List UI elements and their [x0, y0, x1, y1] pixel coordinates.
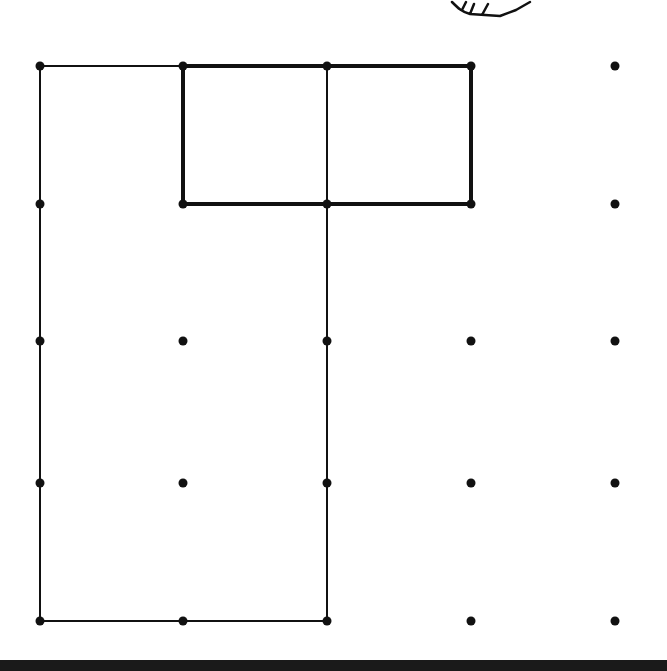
- grid-dot-r0-c2: [323, 62, 332, 71]
- grid-dot-r3-c2: [323, 479, 332, 488]
- grid-dot-r2-c1: [179, 337, 188, 346]
- grid-dot-r4-c3: [467, 617, 476, 626]
- grid-dot-r2-c2: [323, 337, 332, 346]
- grid-dot-r1-c3: [467, 200, 476, 209]
- grid-dot-r0-c4: [611, 62, 620, 71]
- hand-figure-icon: [452, 2, 530, 16]
- grid-dot-r0-c0: [36, 62, 45, 71]
- grid-dot-r2-c3: [467, 337, 476, 346]
- grid-dot-r2-c4: [611, 337, 620, 346]
- grid-dot-r1-c1: [179, 200, 188, 209]
- grid-dot-r1-c4: [611, 200, 620, 209]
- grid-dot-r4-c0: [36, 617, 45, 626]
- grid-dot-r1-c0: [36, 200, 45, 209]
- grid-dot-r3-c4: [611, 479, 620, 488]
- grid-dot-r4-c1: [179, 617, 188, 626]
- grid-dot-r3-c0: [36, 479, 45, 488]
- grid-dot-r0-c1: [179, 62, 188, 71]
- grid-dot-r3-c3: [467, 479, 476, 488]
- grid-dot-r1-c2: [323, 200, 332, 209]
- grid-dot-r0-c3: [467, 62, 476, 71]
- bottom-border-bar: [0, 660, 667, 671]
- grid-dot-r4-c4: [611, 617, 620, 626]
- grid-dot-r4-c2: [323, 617, 332, 626]
- cropped-top-figure: [452, 2, 530, 16]
- grid-dot-r3-c1: [179, 479, 188, 488]
- grid-dot-r2-c0: [36, 337, 45, 346]
- geoboard-diagram: [0, 0, 667, 671]
- thick-rectangle-shape: [183, 66, 471, 204]
